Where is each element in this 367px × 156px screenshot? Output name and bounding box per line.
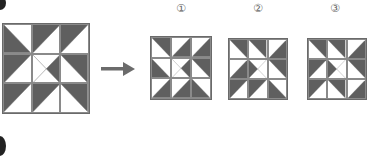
pattern-cell-r0-c0 [308,39,327,59]
pattern-cell-r0-c1 [32,24,61,54]
pattern-cell-r1-c1 [171,58,191,79]
pattern-cell-r0-c2 [60,24,89,54]
option-1-grid[interactable] [150,36,212,100]
pattern-cell-r1-c1 [248,59,267,79]
right-arrow-icon [100,62,136,76]
original-pattern-grid [2,23,90,114]
option-3-grid[interactable] [307,38,367,100]
pattern-cell-r0-c2 [191,37,211,58]
pattern-cell-r1-c2 [191,58,211,79]
pattern-cell-r2-c2 [268,79,287,99]
pattern-cell-r0-c1 [248,39,267,59]
pattern-cell-r0-c1 [327,39,346,59]
pattern-cell-r1-c0 [151,58,171,79]
pattern-cell-r2-c2 [347,79,366,99]
pattern-cell-r2-c0 [3,83,32,113]
pattern-cell-r1-c2 [347,59,366,79]
pattern-cell-r0-c0 [229,39,248,59]
pattern-cell-r2-c0 [308,79,327,99]
pattern-cell-r1-c1 [32,54,61,84]
pattern-cell-r2-c1 [32,83,61,113]
pattern-cell-r0-c0 [151,37,171,58]
pattern-cell-r0-c1 [171,37,191,58]
pattern-cell-r2-c1 [248,79,267,99]
pattern-cell-r2-c2 [60,83,89,113]
option-2-grid[interactable] [228,38,288,100]
bullet-marker-top [0,0,6,10]
pattern-cell-r1-c0 [229,59,248,79]
pattern-cell-r1-c2 [268,59,287,79]
pattern-cell-r0-c2 [268,39,287,59]
pattern-cell-r1-c1 [327,59,346,79]
option-2-label: ② [248,2,268,15]
bullet-marker-bottom [0,136,6,156]
pattern-cell-r1-c2 [60,54,89,84]
pattern-cell-r0-c2 [347,39,366,59]
pattern-cell-r2-c0 [151,78,171,99]
pattern-cell-r2-c1 [171,78,191,99]
option-3-label: ③ [325,2,345,15]
option-1-label: ① [171,2,191,15]
pattern-cell-r1-c0 [308,59,327,79]
pattern-cell-r2-c2 [191,78,211,99]
pattern-cell-r2-c0 [229,79,248,99]
pattern-cell-r0-c0 [3,24,32,54]
pattern-cell-r1-c0 [3,54,32,84]
pattern-cell-r2-c1 [327,79,346,99]
